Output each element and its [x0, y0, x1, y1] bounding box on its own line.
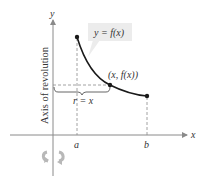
- radius-brace: [54, 87, 110, 95]
- point-b-endpoint: [145, 94, 149, 98]
- curve-label: y = f(x): [93, 27, 125, 39]
- tick-label-b: b: [144, 139, 149, 150]
- curve-f: [77, 37, 147, 96]
- point-x-fx: [108, 83, 112, 87]
- x-axis-label: x: [190, 129, 196, 140]
- point-a-endpoint: [75, 35, 79, 39]
- curve-label-callout: y = f(x): [88, 23, 132, 57]
- point-label: (x, f(x)): [108, 69, 139, 81]
- shell-method-diagram: x y Axis of revolution y = f(x) (x, f(x)…: [0, 0, 205, 176]
- tick-label-a: a: [74, 139, 79, 150]
- dashed-guides: [53, 38, 147, 135]
- y-axis-label: y: [49, 8, 55, 19]
- axis-of-revolution-label: Axis of revolution: [39, 46, 50, 124]
- radius-label: r = x: [73, 95, 94, 106]
- x-axis: x: [10, 129, 196, 140]
